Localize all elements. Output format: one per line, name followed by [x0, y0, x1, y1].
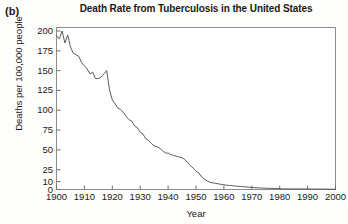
x-tick-label: 1940: [154, 192, 182, 202]
x-tick-label: 1980: [266, 192, 294, 202]
x-tick-label: 1950: [182, 192, 210, 202]
x-tick-label: 1920: [98, 192, 126, 202]
x-tick-label: 1900: [43, 192, 71, 202]
x-tick-label: 1960: [210, 192, 238, 202]
x-tick-label: 2000: [322, 192, 348, 202]
x-tick-label: 1930: [126, 192, 154, 202]
x-tick-label: 1910: [70, 192, 98, 202]
figure-panel: (b) Death Rate from Tuberculosis in the …: [0, 0, 348, 224]
plot-frame: [57, 28, 336, 190]
x-tick-label: 1990: [294, 192, 322, 202]
x-tick-label: 1970: [238, 192, 266, 202]
